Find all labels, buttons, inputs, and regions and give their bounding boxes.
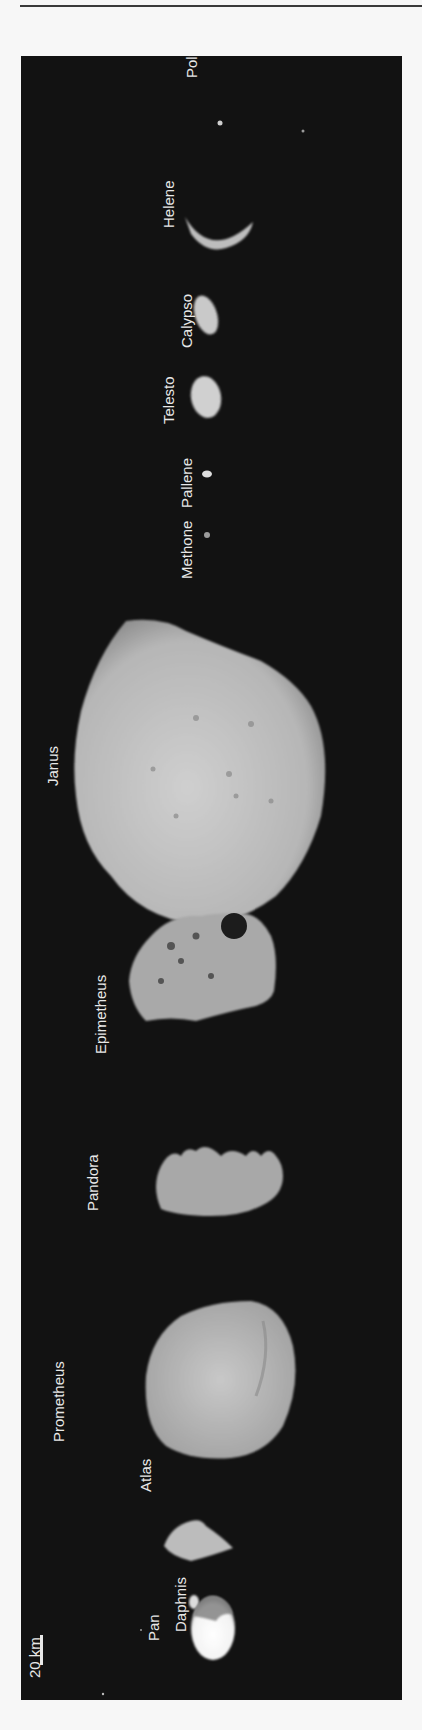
epimetheus-moon xyxy=(129,913,276,1021)
label-epimetheus: Epimetheus xyxy=(93,975,108,1054)
label-pallene: Pallene xyxy=(179,458,194,508)
polydeuces-moon xyxy=(218,121,223,126)
label-janus: Janus xyxy=(45,746,60,786)
scale-bar-label: 20 km xyxy=(27,1637,42,1678)
telesto-moon xyxy=(188,374,225,421)
methone-moon xyxy=(204,532,210,538)
moons-figure-panel: 20 km Pan Daphnis Atlas Prometheus Pando… xyxy=(21,56,402,1700)
label-telesto: Telesto xyxy=(161,376,176,424)
label-helene: Helene xyxy=(161,180,176,228)
pallene-moon xyxy=(202,471,212,478)
atlas-moon xyxy=(164,1520,233,1561)
top-rule xyxy=(20,5,422,7)
label-pan: Pan xyxy=(146,1614,161,1641)
label-pandora: Pandora xyxy=(85,1154,100,1211)
label-methone: Methone xyxy=(179,521,194,579)
label-atlas: Atlas xyxy=(138,1459,153,1492)
prometheus-moon xyxy=(146,1301,296,1459)
moons-illustration xyxy=(21,56,402,1700)
pandora-moon xyxy=(156,1147,283,1216)
label-polydeuces: Polydeuces xyxy=(184,56,199,78)
label-prometheus: Prometheus xyxy=(51,1361,66,1442)
label-daphnis: Daphnis xyxy=(173,1577,188,1632)
janus-moon xyxy=(74,620,325,924)
label-calypso: Calypso xyxy=(179,294,194,348)
helene-moon xyxy=(185,217,253,249)
